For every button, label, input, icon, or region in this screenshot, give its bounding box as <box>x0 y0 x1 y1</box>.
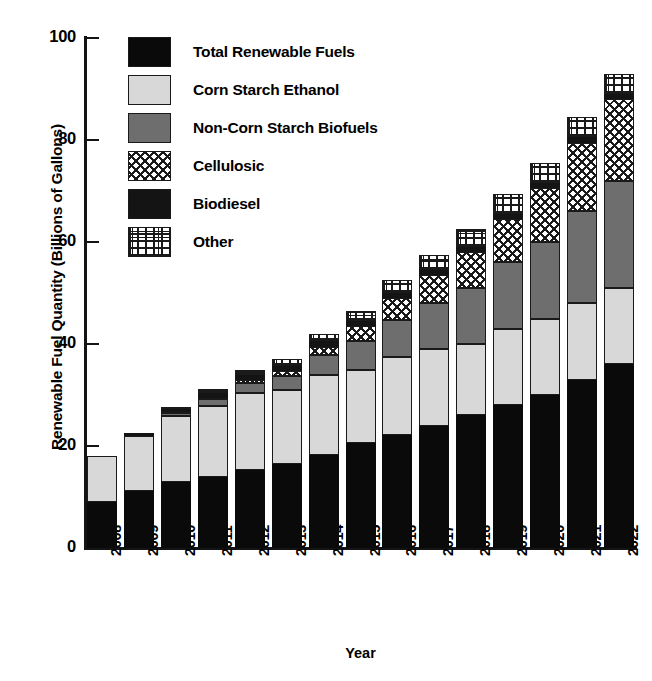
x-axis-title: Year <box>84 645 637 661</box>
bar-segment-2018-total-renewable-fuels[interactable] <box>456 415 486 548</box>
bar-segment-2019-biodiesel[interactable] <box>493 214 523 219</box>
bar-segment-2015-cellulosic[interactable] <box>346 326 376 341</box>
bar-segment-2021-total-renewable-fuels[interactable] <box>567 380 597 548</box>
bar-segment-2015-corn-starch-ethanol[interactable] <box>346 370 376 444</box>
bar-segment-2018-corn-starch-ethanol[interactable] <box>456 344 486 415</box>
bar-segment-2009-total-renewable-fuels[interactable] <box>124 491 154 548</box>
bar-segment-2014-non-corn-starch-biofuels[interactable] <box>309 355 339 374</box>
bar-segment-2022-other[interactable] <box>604 74 634 94</box>
legend-item-corn-starch-ethanol[interactable]: Corn Starch Ethanol <box>128 71 458 109</box>
bar-segment-2013-cellulosic[interactable] <box>272 371 302 376</box>
bar-segment-2013-corn-starch-ethanol[interactable] <box>272 390 302 464</box>
y-axis-tick-label-0: 0 <box>18 537 76 556</box>
bar-segment-2010-total-renewable-fuels[interactable] <box>161 482 191 548</box>
bar-2018[interactable] <box>456 38 486 548</box>
bar-segment-2014-other[interactable] <box>309 334 339 342</box>
bar-segment-2010-corn-starch-ethanol[interactable] <box>161 416 191 482</box>
bar-segment-2015-other[interactable] <box>346 311 376 321</box>
bar-segment-2013-total-renewable-fuels[interactable] <box>272 464 302 548</box>
bar-segment-2019-corn-starch-ethanol[interactable] <box>493 329 523 406</box>
bar-segment-2022-non-corn-starch-biofuels[interactable] <box>604 181 634 288</box>
bar-2019[interactable] <box>493 38 523 548</box>
bar-segment-2014-corn-starch-ethanol[interactable] <box>309 375 339 456</box>
bar-segment-2012-corn-starch-ethanol[interactable] <box>235 393 265 471</box>
bar-segment-2008-corn-starch-ethanol[interactable] <box>87 456 117 502</box>
bar-segment-2022-corn-starch-ethanol[interactable] <box>604 288 634 365</box>
bar-segment-2022-cellulosic[interactable] <box>604 99 634 181</box>
bar-segment-2016-cellulosic[interactable] <box>382 298 412 320</box>
bar-segment-2011-corn-starch-ethanol[interactable] <box>198 406 228 477</box>
bar-segment-2019-total-renewable-fuels[interactable] <box>493 405 523 548</box>
legend-item-biodiesel[interactable]: Biodiesel <box>128 185 458 223</box>
bar-segment-2021-corn-starch-ethanol[interactable] <box>567 303 597 380</box>
bar-segment-2011-biodiesel[interactable] <box>198 393 228 397</box>
bar-segment-2012-non-corn-starch-biofuels[interactable] <box>235 383 265 393</box>
bar-segment-2020-biodiesel[interactable] <box>530 183 560 188</box>
bar-segment-2013-other[interactable] <box>272 359 302 365</box>
legend-item-other[interactable]: Other <box>128 223 458 261</box>
bar-segment-2018-cellulosic[interactable] <box>456 252 486 288</box>
bar-segment-2020-total-renewable-fuels[interactable] <box>530 395 560 548</box>
bar-segment-2016-corn-starch-ethanol[interactable] <box>382 357 412 435</box>
bar-segment-2018-biodiesel[interactable] <box>456 247 486 252</box>
bar-segment-2018-non-corn-starch-biofuels[interactable] <box>456 288 486 344</box>
bar-segment-2017-biodiesel[interactable] <box>419 270 449 275</box>
bar-segment-2021-biodiesel[interactable] <box>567 137 597 142</box>
bar-segment-2020-non-corn-starch-biofuels[interactable] <box>530 242 560 319</box>
bar-segment-2017-non-corn-starch-biofuels[interactable] <box>419 303 449 349</box>
legend-item-label: Other <box>193 233 233 251</box>
bar-segment-2014-cellulosic[interactable] <box>309 347 339 356</box>
bar-segment-2019-cellulosic[interactable] <box>493 219 523 262</box>
bar-segment-2020-other[interactable] <box>530 163 560 183</box>
legend-item-non-corn-starch-biofuels[interactable]: Non-Corn Starch Biofuels <box>128 109 458 147</box>
bar-segment-2017-total-renewable-fuels[interactable] <box>419 426 449 548</box>
bar-segment-2010-non-corn-starch-biofuels[interactable] <box>161 413 191 416</box>
bar-segment-2020-corn-starch-ethanol[interactable] <box>530 319 560 396</box>
bar-segment-2015-total-renewable-fuels[interactable] <box>346 443 376 548</box>
bar-segment-2010-biodiesel[interactable] <box>161 409 191 412</box>
bar-2020[interactable] <box>530 38 560 548</box>
bar-segment-2017-other[interactable] <box>419 255 449 270</box>
bar-segment-2011-non-corn-starch-biofuels[interactable] <box>198 399 228 406</box>
bar-segment-2012-total-renewable-fuels[interactable] <box>235 470 265 548</box>
bar-2021[interactable] <box>567 38 597 548</box>
bar-segment-2021-non-corn-starch-biofuels[interactable] <box>567 211 597 303</box>
bar-segment-2013-biodiesel[interactable] <box>272 366 302 371</box>
bar-segment-2017-corn-starch-ethanol[interactable] <box>419 349 449 426</box>
legend-item-total-renewable-fuels[interactable]: Total Renewable Fuels <box>128 33 458 71</box>
bar-segment-2017-cellulosic[interactable] <box>419 275 449 303</box>
bar-segment-2016-total-renewable-fuels[interactable] <box>382 435 412 548</box>
bar-segment-2021-other[interactable] <box>567 117 597 137</box>
bar-segment-2009-corn-starch-ethanol[interactable] <box>124 436 154 492</box>
bar-segment-2016-biodiesel[interactable] <box>382 293 412 298</box>
bar-segment-2011-total-renewable-fuels[interactable] <box>198 477 228 548</box>
bar-segment-2011-other[interactable] <box>198 389 228 393</box>
bar-segment-2014-biodiesel[interactable] <box>309 341 339 346</box>
bar-segment-2009-biodiesel[interactable] <box>124 433 154 436</box>
bar-2022[interactable] <box>604 38 634 548</box>
bar-segment-2020-cellulosic[interactable] <box>530 188 560 242</box>
bar-2008[interactable] <box>87 38 117 548</box>
bar-segment-2015-non-corn-starch-biofuels[interactable] <box>346 341 376 369</box>
bar-segment-2014-total-renewable-fuels[interactable] <box>309 455 339 548</box>
legend-swatch-icon-solid-black <box>128 37 171 67</box>
bar-segment-2019-non-corn-starch-biofuels[interactable] <box>493 262 523 328</box>
bar-segment-2019-other[interactable] <box>493 194 523 214</box>
legend-item-cellulosic[interactable]: Cellulosic <box>128 147 458 185</box>
bar-segment-2015-biodiesel[interactable] <box>346 321 376 326</box>
bar-segment-2012-biodiesel[interactable] <box>235 375 265 380</box>
bar-segment-2021-cellulosic[interactable] <box>567 143 597 212</box>
bar-segment-2016-non-corn-starch-biofuels[interactable] <box>382 320 412 357</box>
legend-swatch-icon-grid <box>128 227 171 257</box>
bar-segment-2012-other[interactable] <box>235 370 265 375</box>
bar-segment-2016-other[interactable] <box>382 280 412 293</box>
bar-segment-2012-cellulosic[interactable] <box>235 380 265 383</box>
y-axis-tick-label-80: 80 <box>18 129 76 148</box>
bar-segment-2022-biodiesel[interactable] <box>604 94 634 99</box>
bar-segment-2013-non-corn-starch-biofuels[interactable] <box>272 376 302 390</box>
bar-segment-2022-total-renewable-fuels[interactable] <box>604 364 634 548</box>
legend-item-label: Total Renewable Fuels <box>193 43 355 61</box>
bar-segment-2018-other[interactable] <box>456 229 486 247</box>
bar-segment-2008-total-renewable-fuels[interactable] <box>87 502 117 548</box>
bar-segment-2010-other[interactable] <box>161 407 191 409</box>
